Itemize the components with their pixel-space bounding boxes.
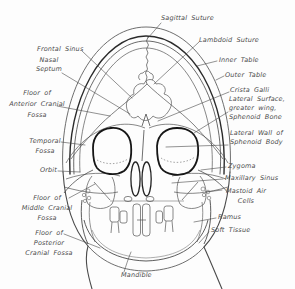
label-crista-galli: Crista Galli — [230, 86, 269, 94]
label-inner-table: Inner Table — [219, 56, 259, 64]
teeth-shapes — [110, 196, 173, 236]
maxillary-sinus-shapes — [86, 176, 206, 209]
frontal-sinus-shape — [126, 71, 171, 121]
label-sphenoid-greater-wing: Lateral Surface, greater wing, Sphenoid … — [229, 95, 285, 122]
sphenoid-ridge-lines — [64, 124, 228, 193]
label-sagittal-suture: Sagittal Suture — [161, 14, 214, 22]
label-maxillary-sinus: Maxillary Sinus — [225, 174, 278, 182]
crista-galli-shape — [142, 114, 150, 161]
label-temporal-fossa: Temporal Fossa — [24, 136, 66, 156]
mandible-shape — [81, 200, 211, 261]
label-mandible: Mandible — [121, 271, 152, 279]
label-zygoma: Zygoma — [228, 162, 256, 170]
label-outer-table: Outer Table — [225, 71, 266, 79]
sagittal-suture-line — [146, 37, 149, 84]
label-frontal-sinus: Frontal Sinus — [37, 45, 83, 53]
label-lambdoid-suture: Lambdoid Suture — [199, 36, 259, 44]
label-mastoid-air-cells: Mastoid Air Cells — [224, 186, 268, 206]
label-soft-tissue: Soft Tissue — [211, 226, 250, 234]
label-floor-anterior-cranial-fossa: Floor of Anterior Cranial Fossa — [6, 88, 68, 121]
orbit-outlines — [93, 128, 198, 175]
skull-diagram-figure: Sagittal Suture Lambdoid Suture Inner Ta… — [0, 0, 295, 289]
nasal-septum-shape — [131, 162, 151, 196]
label-lateral-wall-sphenoid-body: Lateral Wall of Sphenoid Body — [230, 129, 283, 147]
label-floor-middle-cranial-fossa: Floor of Middle Cranial Fossa — [16, 193, 78, 223]
label-ramus: Ramus — [218, 213, 241, 221]
label-nasal-septum: Nasal Septum — [30, 56, 68, 74]
label-floor-posterior-cranial-fossa: Floor of Posterior Cranial Fossa — [18, 228, 80, 258]
label-orbit: Orbit — [40, 166, 57, 174]
